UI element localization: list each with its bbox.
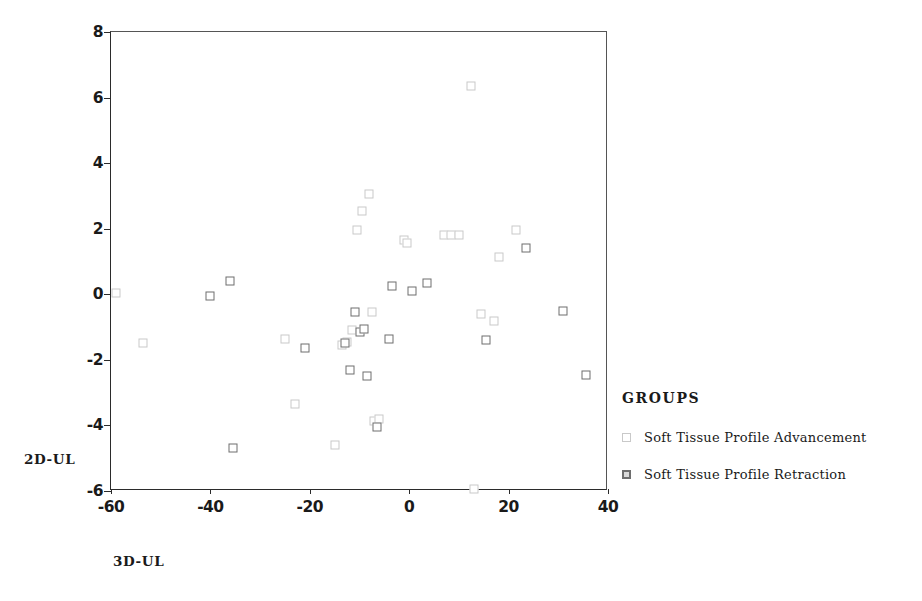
- data-point: [357, 206, 366, 215]
- y-tick-label: -4: [87, 416, 103, 434]
- x-tick: [310, 489, 311, 494]
- x-tick-label: 20: [498, 498, 519, 516]
- plot-area: -6-4-202468 -60-40-2002040: [110, 31, 607, 490]
- x-tick: [210, 489, 211, 494]
- x-tick-label: -40: [197, 498, 224, 516]
- data-point: [469, 485, 478, 494]
- data-point: [360, 324, 369, 333]
- data-point: [353, 226, 362, 235]
- data-point: [512, 226, 521, 235]
- data-point: [581, 370, 590, 379]
- x-tick-label: 0: [404, 498, 414, 516]
- data-point: [489, 316, 498, 325]
- data-point: [300, 344, 309, 353]
- x-tick: [111, 489, 112, 494]
- data-point: [402, 239, 411, 248]
- x-axis-title: 3D-UL: [113, 553, 164, 569]
- x-tick: [608, 489, 609, 494]
- data-point: [111, 288, 120, 297]
- legend-item-advancement: Soft Tissue Profile Advancement: [622, 430, 867, 445]
- y-tick: [104, 229, 111, 230]
- data-point: [521, 244, 530, 253]
- data-point: [340, 339, 349, 348]
- y-tick-label: 0: [93, 285, 103, 303]
- legend-marker-advancement-icon: [622, 433, 631, 442]
- y-tick-label: -2: [87, 351, 103, 369]
- y-tick-label: 8: [93, 23, 103, 41]
- y-tick: [104, 425, 111, 426]
- data-point: [422, 278, 431, 287]
- y-tick: [104, 163, 111, 164]
- x-tick-label: -60: [98, 498, 125, 516]
- y-tick-label: 6: [93, 89, 103, 107]
- y-axis-title: 2D-UL: [24, 451, 75, 467]
- data-points-layer: [111, 32, 606, 489]
- y-tick: [104, 491, 111, 492]
- data-point: [362, 372, 371, 381]
- x-tick: [509, 489, 510, 494]
- data-point: [407, 287, 416, 296]
- y-tick: [104, 294, 111, 295]
- legend-label-retraction: Soft Tissue Profile Retraction: [644, 467, 846, 482]
- x-tick-label: -20: [297, 498, 324, 516]
- x-tick: [409, 489, 410, 494]
- data-point: [228, 444, 237, 453]
- y-tick: [104, 360, 111, 361]
- data-point: [454, 231, 463, 240]
- data-point: [372, 423, 381, 432]
- legend-title: GROUPS: [622, 390, 867, 406]
- data-point: [280, 334, 289, 343]
- data-point: [206, 291, 215, 300]
- x-tick-label: 40: [598, 498, 619, 516]
- data-point: [290, 400, 299, 409]
- y-tick: [104, 98, 111, 99]
- data-point: [385, 334, 394, 343]
- data-point: [387, 282, 396, 291]
- data-point: [226, 277, 235, 286]
- data-point: [139, 339, 148, 348]
- data-point: [467, 82, 476, 91]
- y-tick-label: 4: [93, 154, 103, 172]
- data-point: [477, 309, 486, 318]
- legend-marker-retraction-icon: [622, 470, 631, 479]
- data-point: [367, 308, 376, 317]
- data-point: [494, 252, 503, 261]
- legend: GROUPS Soft Tissue Profile Advancement S…: [622, 390, 867, 504]
- legend-label-advancement: Soft Tissue Profile Advancement: [644, 430, 867, 445]
- data-point: [330, 441, 339, 450]
- legend-item-retraction: Soft Tissue Profile Retraction: [622, 467, 867, 482]
- scatter-plot-figure: -6-4-202468 -60-40-2002040 2D-UL 3D-UL G…: [0, 0, 922, 601]
- y-tick-label: 2: [93, 220, 103, 238]
- data-point: [365, 190, 374, 199]
- y-tick: [104, 32, 111, 33]
- data-point: [559, 306, 568, 315]
- data-point: [350, 308, 359, 317]
- data-point: [482, 336, 491, 345]
- data-point: [345, 365, 354, 374]
